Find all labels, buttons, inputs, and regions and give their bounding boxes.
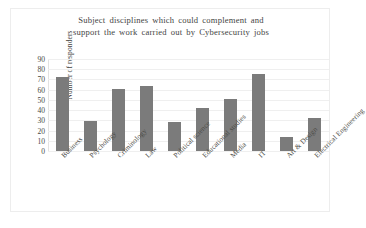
y-axis-tick-label: 50 [37, 95, 45, 104]
chart-container: Subject disciplines which could compleme… [10, 8, 330, 212]
bar [112, 89, 125, 151]
chart-title-line-1: Subject disciplines which could compleme… [78, 15, 263, 25]
gridline [48, 100, 329, 101]
y-axis-tick-label: 30 [37, 116, 45, 125]
y-axis-tick-label: 40 [37, 106, 45, 115]
y-axis-tick-label: 90 [37, 55, 45, 64]
y-axis-tick-label: 20 [37, 126, 45, 135]
y-axis-tick-label: 70 [37, 75, 45, 84]
gridline [48, 69, 329, 70]
bar [252, 74, 265, 151]
y-axis-tick-label: 0 [41, 147, 45, 156]
gridline [48, 79, 329, 80]
gridline [48, 110, 329, 111]
gridline [48, 59, 329, 60]
chart-title-line-2: support the work carried out by Cybersec… [73, 27, 269, 37]
y-axis-tick-label: 80 [37, 65, 45, 74]
y-axis-title: Number of responders [25, 0, 37, 71]
bar [140, 86, 153, 151]
bar [56, 77, 69, 151]
y-axis-tick-label: 60 [37, 85, 45, 94]
gridline [48, 90, 329, 91]
y-axis-tick-label: 10 [37, 136, 45, 145]
